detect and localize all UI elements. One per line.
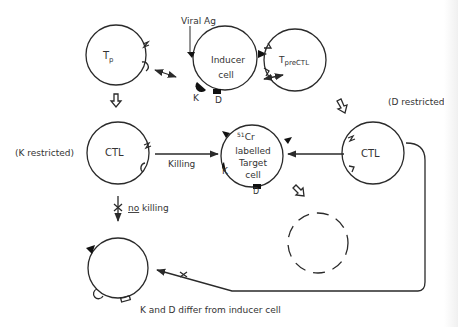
blocked-cross-icon — [180, 272, 187, 277]
target-k-marker: K — [222, 166, 229, 176]
lysed-cell — [288, 213, 348, 273]
k-d-differ-label: K and D differ from inducer cell — [140, 305, 281, 315]
tp-inducer-arrow — [155, 70, 176, 77]
killing-label: Killing — [168, 159, 195, 169]
page-edge-shadow — [444, 0, 458, 327]
inducer-label-1: Inducer — [211, 55, 245, 65]
tprectl-to-ctl-arrow — [337, 99, 347, 113]
viral-ag-label: Viral Ag — [181, 16, 216, 26]
tprectl-label: TpreCTL — [278, 55, 309, 67]
ctl-left-label: CTL — [105, 147, 124, 158]
target-label-2: labelled — [235, 146, 271, 156]
tp-to-ctl-arrow — [111, 94, 121, 107]
target-d-marker: D — [253, 187, 259, 196]
target-to-lysed-arrow — [293, 185, 304, 196]
target-label-1: 51Cr — [237, 131, 255, 142]
inducer-label-2: cell — [218, 70, 234, 80]
inducer-d-marker: D — [215, 95, 222, 105]
target-label-4: cell — [245, 170, 261, 180]
tp-cell — [86, 25, 149, 85]
d-restricted-label: (D restricted) — [388, 97, 448, 107]
ctl-right-label: CTL — [361, 148, 380, 159]
restriction-diagram: Tp Inducer cell K D Viral Ag TpreCTL — [0, 0, 458, 327]
target-label-3: Target — [238, 158, 267, 168]
bottom-cell — [86, 238, 148, 302]
no-killing-label: no killing — [128, 203, 169, 213]
k-restricted-label: (K restricted) — [15, 148, 74, 158]
inducer-k-marker: K — [193, 93, 200, 103]
tp-label: Tp — [102, 50, 114, 64]
ctl-right-to-bottom-arrow — [157, 143, 425, 291]
